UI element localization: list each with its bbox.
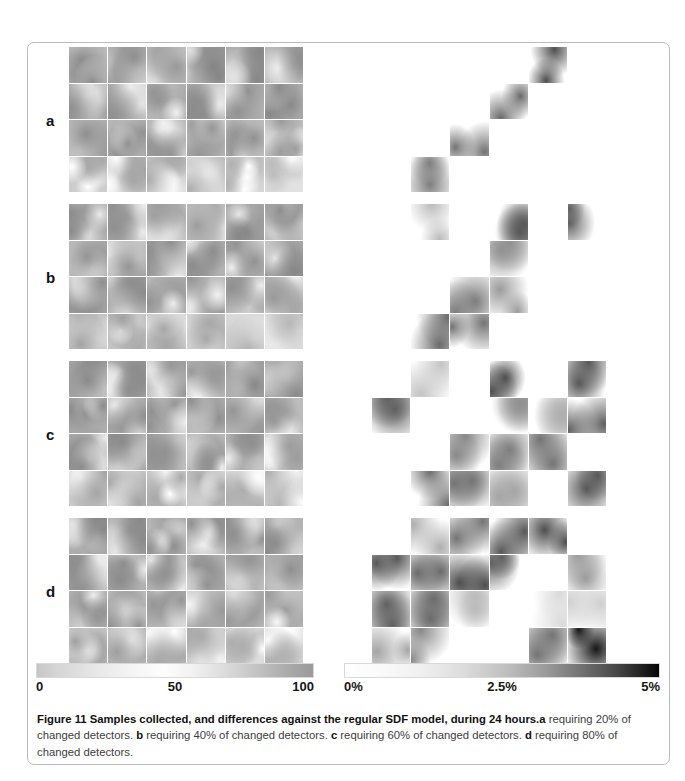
- samples-colorbar: 0 50 100: [36, 663, 314, 698]
- sample-tile: [226, 204, 264, 240]
- tile-gradient: [187, 157, 225, 193]
- difference-tile: [372, 591, 410, 627]
- tile-gradient: [568, 204, 606, 240]
- tile-gradient: [226, 120, 264, 156]
- tile-gradient: [108, 471, 146, 507]
- tile-gradient: [265, 241, 303, 277]
- tile-gradient: [450, 157, 488, 193]
- tile-gradient: [411, 628, 449, 664]
- tile-gradient: [411, 361, 449, 397]
- tile-gradient: [568, 314, 606, 350]
- sample-tile: [147, 361, 185, 397]
- tile-gradient: [265, 398, 303, 434]
- tile-gradient: [490, 591, 528, 627]
- difference-tile: [568, 555, 606, 591]
- sample-tile: [226, 157, 264, 193]
- difference-tile: [450, 628, 488, 664]
- caption-text-c: requiring 60% of changed detectors.: [337, 729, 525, 741]
- tile-gradient: [226, 518, 264, 554]
- tile-gradient: [69, 628, 107, 664]
- tile-gradient: [568, 628, 606, 664]
- difference-tile: [490, 241, 528, 277]
- difference-tile: [568, 84, 606, 120]
- tile-gradient: [411, 398, 449, 434]
- difference-tile: [372, 434, 410, 470]
- tile-gradient: [372, 241, 410, 277]
- difference-tile: [372, 471, 410, 507]
- tile-gradient: [450, 241, 488, 277]
- sample-tile: [108, 518, 146, 554]
- difference-tile: [450, 471, 488, 507]
- tile-gradient: [187, 518, 225, 554]
- tile-gradient: [568, 361, 606, 397]
- tile-gradient: [411, 47, 449, 83]
- tile-gradient: [490, 241, 528, 277]
- difference-tile: [411, 434, 449, 470]
- tile-gradient: [69, 434, 107, 470]
- difference-tile: [529, 277, 567, 313]
- sample-tile: [265, 241, 303, 277]
- differences-tick-max: 5%: [641, 680, 660, 693]
- sample-tile: [69, 277, 107, 313]
- difference-tile: [568, 591, 606, 627]
- tile-gradient: [265, 314, 303, 350]
- tile-gradient: [226, 204, 264, 240]
- tile-gradient: [69, 157, 107, 193]
- sample-tile: [108, 314, 146, 350]
- difference-tile: [450, 241, 488, 277]
- tile-gradient: [147, 361, 185, 397]
- difference-tile: [450, 47, 488, 83]
- sample-tile: [108, 277, 146, 313]
- tile-gradient: [226, 591, 264, 627]
- difference-tile: [529, 241, 567, 277]
- tile-gradient: [69, 314, 107, 350]
- sample-tile: [69, 471, 107, 507]
- tile-gradient: [69, 47, 107, 83]
- sample-tile: [265, 434, 303, 470]
- sample-tile: [187, 628, 225, 664]
- tile-gradient: [187, 398, 225, 434]
- sample-tile: [265, 47, 303, 83]
- difference-tile: [450, 555, 488, 591]
- tile-gradient: [226, 398, 264, 434]
- difference-tile: [490, 555, 528, 591]
- difference-tile: [568, 398, 606, 434]
- tile-gradient: [372, 314, 410, 350]
- difference-tile: [529, 120, 567, 156]
- sample-tile: [187, 434, 225, 470]
- tile-gradient: [490, 84, 528, 120]
- sample-tile: [108, 204, 146, 240]
- tile-gradient: [265, 434, 303, 470]
- sample-tile: [147, 84, 185, 120]
- tile-gradient: [108, 398, 146, 434]
- sample-tile: [226, 591, 264, 627]
- panel-a: a: [28, 43, 669, 196]
- samples-tick-max: 100: [292, 680, 314, 693]
- sample-tile: [226, 555, 264, 591]
- difference-tile: [411, 277, 449, 313]
- sample-tile: [147, 591, 185, 627]
- tile-gradient: [568, 84, 606, 120]
- tile-gradient: [411, 204, 449, 240]
- tile-gradient: [411, 84, 449, 120]
- tile-gradient: [265, 471, 303, 507]
- sample-tile: [226, 361, 264, 397]
- tile-gradient: [147, 204, 185, 240]
- tile-gradient: [226, 434, 264, 470]
- tile-gradient: [490, 361, 528, 397]
- difference-tile: [372, 277, 410, 313]
- sample-tile: [226, 84, 264, 120]
- tile-gradient: [108, 277, 146, 313]
- sample-tile: [147, 157, 185, 193]
- tile-gradient: [529, 471, 567, 507]
- tile-gradient: [490, 628, 528, 664]
- tile-gradient: [529, 361, 567, 397]
- sample-tile: [226, 518, 264, 554]
- difference-tile: [490, 157, 528, 193]
- tile-gradient: [529, 434, 567, 470]
- tile-gradient: [69, 398, 107, 434]
- difference-tile: [568, 120, 606, 156]
- difference-tile: [490, 120, 528, 156]
- tile-gradient: [69, 591, 107, 627]
- panel-b-samples-grid: [69, 204, 303, 349]
